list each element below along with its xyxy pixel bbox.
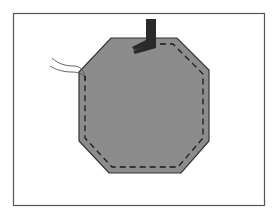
diagram-canvas [0,0,276,213]
sewing-illustration [0,0,276,213]
